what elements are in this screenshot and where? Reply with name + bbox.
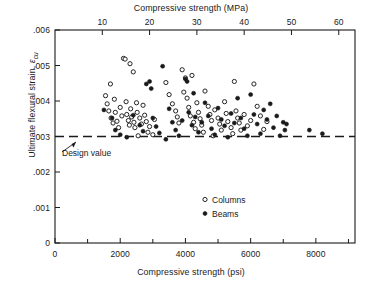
data-point-beams [216, 106, 220, 110]
data-point-columns [133, 126, 137, 130]
data-point-columns [258, 114, 262, 118]
data-point-columns [252, 82, 256, 86]
x-tick-label-bottom-0: 0 [53, 249, 58, 259]
data-point-beams [157, 131, 161, 135]
data-point-columns [108, 82, 112, 86]
data-point-columns [218, 122, 222, 126]
data-point-beams [271, 126, 275, 130]
data-point-columns [242, 112, 246, 116]
data-point-columns [209, 118, 213, 122]
data-point-beams [167, 107, 171, 111]
data-point-beams [219, 117, 223, 121]
data-point-columns [203, 89, 207, 93]
data-point-columns [125, 112, 129, 116]
data-point-columns [206, 104, 210, 108]
data-point-columns [144, 119, 148, 123]
chart-figure: Compressive strength (MPa) Compressive s… [0, 0, 382, 285]
data-point-columns [201, 130, 205, 134]
data-point-columns [118, 105, 122, 109]
data-point-columns [120, 114, 124, 118]
y-tick-label-4: .004 [22, 96, 50, 106]
data-point-beams [265, 117, 269, 121]
x-tick-label-top-10: 10 [97, 17, 107, 27]
data-point-columns [141, 103, 145, 107]
data-point-beams [131, 113, 135, 117]
data-point-columns [196, 110, 200, 114]
x-tick-label-top-40: 40 [239, 17, 249, 27]
y-tick-label-3: .003 [22, 132, 50, 142]
data-point-columns [164, 80, 168, 84]
data-point-beams [239, 116, 243, 120]
data-point-columns [115, 119, 119, 123]
data-point-beams [262, 108, 266, 112]
data-point-columns [175, 115, 179, 119]
data-point-columns [249, 118, 253, 122]
data-point-beams [258, 132, 262, 136]
data-point-beams [283, 128, 287, 132]
data-point-columns [146, 130, 150, 134]
data-point-beams [203, 101, 207, 105]
data-point-columns [222, 100, 226, 104]
data-point-columns [232, 79, 236, 83]
data-point-columns [190, 73, 194, 77]
data-point-beams [320, 132, 324, 136]
x-tick-label-bottom-8000: 8000 [306, 249, 325, 259]
data-point-beams [245, 134, 249, 138]
data-point-columns [255, 104, 259, 108]
data-point-columns [193, 127, 197, 131]
data-point-beams [148, 79, 152, 83]
data-point-columns [229, 126, 233, 130]
data-point-beams [210, 127, 214, 131]
data-point-beams [193, 115, 197, 119]
data-point-columns [224, 111, 228, 115]
data-point-beams [236, 96, 240, 100]
plot-canvas [0, 0, 382, 285]
data-point-columns [132, 120, 136, 124]
data-point-columns [195, 101, 199, 105]
data-point-beams [223, 124, 227, 128]
data-point-beams [255, 122, 259, 126]
data-point-columns [237, 121, 241, 125]
data-point-beams [232, 121, 236, 125]
data-point-beams [164, 137, 168, 141]
x-tick-label-top-50: 50 [287, 17, 297, 27]
x-tick-label-top-60: 60 [334, 17, 344, 27]
data-point-beams [113, 128, 117, 132]
data-point-beams [138, 123, 142, 127]
data-point-columns [151, 133, 155, 137]
data-point-beams [307, 128, 311, 132]
data-point-columns [180, 68, 184, 72]
series-columns [103, 56, 269, 138]
data-point-beams [187, 110, 191, 114]
x-tick-label-bottom-6000: 6000 [241, 249, 260, 259]
data-point-beams [226, 135, 230, 139]
data-point-beams [174, 128, 178, 132]
y-tick-label-6: .006 [22, 25, 50, 35]
data-point-beams [177, 134, 181, 138]
x-tick-label-top-30: 30 [192, 17, 202, 27]
data-point-columns [103, 94, 107, 98]
y-tick-label-0: 0 [22, 238, 50, 248]
data-point-beams [185, 79, 189, 83]
data-point-columns [187, 105, 191, 109]
data-point-columns [219, 128, 223, 132]
x-tick-label-bottom-2000: 2000 [111, 249, 130, 259]
y-tick-label-5: .005 [22, 61, 50, 71]
data-point-beams [149, 87, 153, 91]
data-point-columns [174, 109, 178, 113]
data-point-beams [118, 133, 122, 137]
data-point-beams [252, 112, 256, 116]
data-point-beams [285, 122, 289, 126]
legend-marker-columns [203, 197, 207, 201]
y-tick-label-2: .002 [22, 167, 50, 177]
data-point-beams [242, 127, 246, 131]
data-point-columns [112, 97, 116, 101]
data-point-beams [196, 130, 200, 134]
x-tick-label-top-20: 20 [145, 17, 155, 27]
x-tick-label-bottom-4000: 4000 [176, 249, 195, 259]
data-point-beams [170, 120, 174, 124]
data-point-columns [170, 102, 174, 106]
data-point-columns [123, 57, 127, 61]
data-point-columns [185, 96, 189, 100]
data-point-beams [206, 114, 210, 118]
